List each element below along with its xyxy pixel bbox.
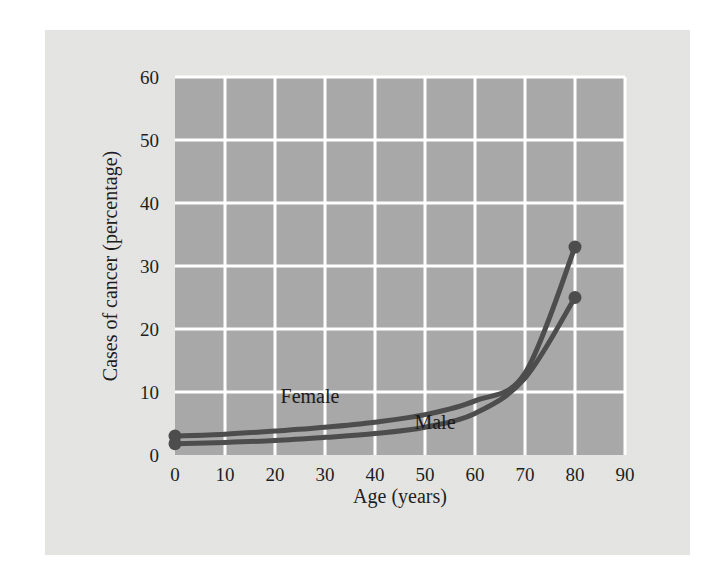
y-tick-label-60: 60 [140,67,159,88]
y-tick-label-20: 20 [140,319,159,340]
y-tick-label-10: 10 [140,382,159,403]
marker-male-end [569,291,582,304]
x-tick-label-40: 40 [366,464,385,485]
x-tick-label-90: 90 [616,464,635,485]
x-tick-label-30: 30 [316,464,335,485]
y-tick-label-40: 40 [140,193,159,214]
annotation-female: Female [281,385,340,407]
x-tick-label-70: 70 [516,464,535,485]
x-tick-label-10: 10 [216,464,235,485]
x-tick-label-50: 50 [416,464,435,485]
x-tick-label-80: 80 [566,464,585,485]
y-axis-tick-labels: 0102030405060 [140,67,159,466]
x-axis-tick-labels: 0102030405060708090 [170,464,634,485]
y-tick-label-30: 30 [140,256,159,277]
x-axis-title: Age (years) [353,485,447,508]
y-tick-label-0: 0 [150,445,160,466]
cancer-cases-by-age-line-chart: 0102030405060708090 0102030405060 Female… [0,0,726,581]
y-tick-label-50: 50 [140,130,159,151]
marker-female-end [569,241,582,254]
marker-male-start [169,437,182,450]
y-axis-title: Cases of cancer (percentage) [99,151,122,381]
annotation-male: Male [414,411,455,433]
x-tick-label-60: 60 [466,464,485,485]
x-tick-label-20: 20 [266,464,285,485]
x-tick-label-0: 0 [170,464,180,485]
figure-root: 0102030405060708090 0102030405060 Female… [0,0,726,581]
